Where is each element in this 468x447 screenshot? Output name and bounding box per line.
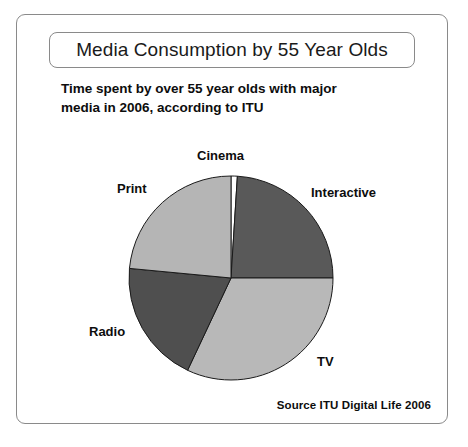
source-note: Source ITU Digital Life 2006 [277,399,431,411]
pie-slice-tv [188,278,333,380]
pie-label-interactive: Interactive [311,185,376,200]
pie-slice-radio [129,268,231,370]
chart-subtitle: Time spent by over 55 year olds with maj… [61,79,391,117]
pie-slice-group [129,176,333,380]
pie-label-cinema: Cinema [197,148,244,163]
chart-frame: Media Consumption by 55 Year Olds Time s… [16,14,448,424]
page-title: Media Consumption by 55 Year Olds [76,39,388,61]
pie-label-tv: TV [317,354,334,369]
pie-chart [17,15,449,425]
subtitle-line-2: media in 2006, according to ITU [61,98,391,117]
pie-label-print: Print [117,181,147,196]
pie-chart-svg [17,15,449,425]
pie-slice-cinema [231,176,237,278]
subtitle-line-1: Time spent by over 55 year olds with maj… [61,79,391,98]
chart-title-box: Media Consumption by 55 Year Olds [49,32,415,68]
pie-label-radio: Radio [89,324,125,339]
